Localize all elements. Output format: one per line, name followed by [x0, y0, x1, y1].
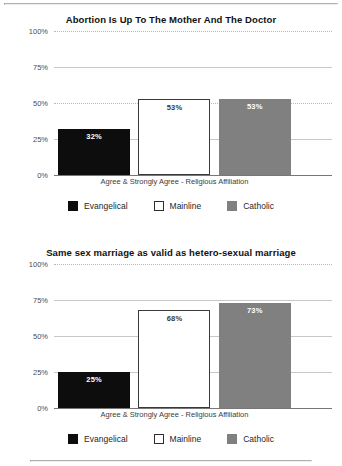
- chart-block-same-sex-marriage: Same sex marriage as valid as hetero-sex…: [0, 247, 342, 444]
- legend-swatch-mainline-icon: [154, 201, 164, 211]
- bar-value-label: 25%: [86, 375, 102, 408]
- legend-label: Catholic: [243, 434, 274, 444]
- legend-item-catholic[interactable]: Catholic: [227, 434, 274, 444]
- bar-slot: 53%: [134, 31, 214, 175]
- gridline-0: [54, 408, 332, 409]
- y-tick-label: 100%: [29, 260, 48, 269]
- bars-container: 25% 68% 73%: [54, 264, 295, 408]
- y-axis: 100% 75% 50% 25% 0%: [0, 31, 52, 175]
- y-tick-label: 75%: [33, 63, 48, 72]
- legend-swatch-catholic-icon: [227, 201, 237, 211]
- legend-item-catholic[interactable]: Catholic: [227, 201, 274, 211]
- y-tick-label: 25%: [33, 135, 48, 144]
- top-divider: [4, 3, 338, 5]
- x-axis-label: Agree & Strongly Agree - Religious Affil…: [54, 177, 295, 186]
- legend-label: Mainline: [170, 201, 202, 211]
- legend-label: Evangelical: [84, 201, 127, 211]
- bar-slot: 53%: [215, 31, 295, 175]
- bar-slot: 25%: [54, 264, 134, 408]
- bar-value-label: 73%: [247, 306, 263, 408]
- gridline-0: [54, 175, 332, 176]
- bar-catholic[interactable]: 73%: [219, 303, 291, 408]
- legend-item-evangelical[interactable]: Evangelical: [68, 201, 127, 211]
- legend-item-mainline[interactable]: Mainline: [154, 434, 202, 444]
- bar-value-label: 32%: [86, 132, 102, 175]
- bar-value-label: 53%: [247, 102, 263, 175]
- bars-container: 32% 53% 53%: [54, 31, 295, 175]
- y-tick-label: 75%: [33, 296, 48, 305]
- bar-evangelical[interactable]: 25%: [58, 372, 130, 408]
- bar-mainline[interactable]: 68%: [138, 310, 210, 408]
- y-tick-label: 50%: [33, 99, 48, 108]
- legend-swatch-evangelical-icon: [68, 434, 78, 444]
- chart-title: Abortion Is Up To The Mother And The Doc…: [0, 14, 342, 25]
- bar-slot: 73%: [215, 264, 295, 408]
- chart-legend: Evangelical Mainline Catholic: [0, 434, 342, 444]
- plot-area: 100% 75% 50% 25% 0% 32% 53%: [0, 31, 342, 175]
- bar-value-label: 68%: [167, 314, 183, 407]
- bar-slot: 68%: [134, 264, 214, 408]
- bottom-divider: [30, 460, 312, 462]
- chart-title: Same sex marriage as valid as hetero-sex…: [0, 247, 342, 258]
- bar-value-label: 53%: [167, 103, 183, 174]
- y-axis: 100% 75% 50% 25% 0%: [0, 264, 52, 408]
- legend-item-mainline[interactable]: Mainline: [154, 201, 202, 211]
- plot-area: 100% 75% 50% 25% 0% 25% 68%: [0, 264, 342, 408]
- chart-legend: Evangelical Mainline Catholic: [0, 201, 342, 211]
- y-tick-label: 25%: [33, 368, 48, 377]
- legend-swatch-catholic-icon: [227, 434, 237, 444]
- x-axis-label: Agree & Strongly Agree - Religious Affil…: [54, 410, 295, 419]
- legend-swatch-evangelical-icon: [68, 201, 78, 211]
- bar-slot: 32%: [54, 31, 134, 175]
- legend-swatch-mainline-icon: [154, 434, 164, 444]
- y-tick-label: 50%: [33, 332, 48, 341]
- bar-catholic[interactable]: 53%: [219, 99, 291, 175]
- bar-mainline[interactable]: 53%: [138, 99, 210, 175]
- legend-label: Evangelical: [84, 434, 127, 444]
- y-tick-label: 0%: [37, 404, 48, 413]
- legend-label: Mainline: [170, 434, 202, 444]
- legend-label: Catholic: [243, 201, 274, 211]
- legend-item-evangelical[interactable]: Evangelical: [68, 434, 127, 444]
- bar-evangelical[interactable]: 32%: [58, 129, 130, 175]
- y-tick-label: 100%: [29, 27, 48, 36]
- y-tick-label: 0%: [37, 171, 48, 180]
- chart-block-abortion: Abortion Is Up To The Mother And The Doc…: [0, 14, 342, 211]
